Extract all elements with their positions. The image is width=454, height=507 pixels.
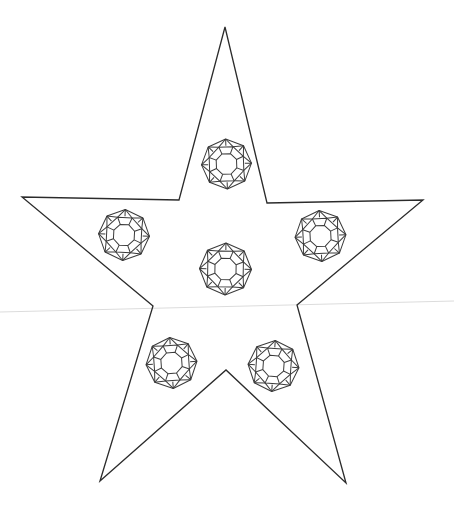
gem-facet [132, 217, 143, 218]
gem-facet [302, 218, 313, 219]
gem-facet [303, 244, 304, 255]
canvas-background [0, 0, 454, 507]
gem-facet [209, 172, 210, 183]
gem-facet [234, 180, 245, 181]
gem-facet [207, 286, 218, 287]
gem-facet [208, 147, 219, 148]
gem-facet [106, 216, 107, 227]
gem-facet [243, 277, 244, 288]
drawing-canvas [0, 0, 454, 507]
gem-facet [337, 217, 338, 228]
gem-facet [207, 250, 208, 261]
gem-facet [329, 252, 340, 253]
gem-facet [243, 146, 244, 157]
gem-facet [233, 251, 244, 252]
star-gem-illustration [0, 0, 454, 507]
gem-facet [140, 243, 141, 254]
gem-facet [105, 251, 116, 252]
